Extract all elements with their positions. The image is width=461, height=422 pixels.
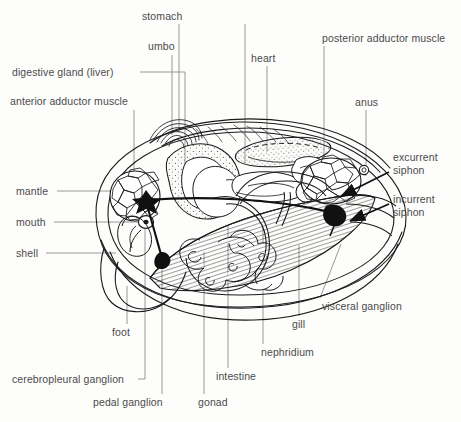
label-incurrent-siphon-line2: siphon	[393, 206, 425, 218]
label-umbo: umbo	[148, 40, 175, 52]
anus-opening-inner	[362, 168, 366, 172]
label-gill: gill	[292, 318, 305, 330]
label-excurrent-siphon-line1: excurrent	[393, 151, 438, 163]
label-stomach: stomach	[142, 10, 182, 22]
label-gonad: gonad	[198, 396, 228, 408]
label-mantle: mantle	[16, 185, 48, 197]
label-incurrent-siphon-line1: incurrent	[393, 193, 435, 205]
bivalve-anatomy-figure: stomach umbo heart posterior adductor mu…	[0, 0, 461, 422]
label-foot: foot	[112, 326, 130, 338]
label-digestive-gland: digestive gland (liver)	[12, 66, 114, 78]
label-intestine: intestine	[216, 370, 256, 382]
label-shell: shell	[16, 247, 38, 259]
label-cerebropleural-ganglion: cerebropleural ganglion	[12, 373, 124, 385]
bivalve-anatomy-drawing	[0, 0, 461, 422]
label-nephridium: nephridium	[261, 346, 314, 358]
label-visceral-ganglion: visceral ganglion	[322, 300, 402, 312]
label-incurrent-siphon: incurrent siphon	[393, 193, 435, 219]
anterior-adductor-muscle-organ	[110, 168, 160, 221]
label-anus: anus	[355, 96, 378, 108]
label-pedal-ganglion: pedal ganglion	[93, 396, 163, 408]
label-anterior-adductor-muscle: anterior adductor muscle	[10, 95, 128, 107]
label-heart: heart	[251, 52, 275, 64]
label-excurrent-siphon: excurrent siphon	[393, 151, 438, 177]
label-mouth: mouth	[16, 216, 46, 228]
label-excurrent-siphon-line2: siphon	[393, 164, 425, 176]
label-posterior-adductor-muscle: posterior adductor muscle	[322, 32, 445, 44]
